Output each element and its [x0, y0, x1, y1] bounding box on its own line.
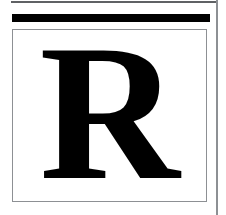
section-initial-letter: R: [13, 30, 206, 201]
right-column-rule: [216, 0, 218, 215]
top-hairline-rule: [11, 1, 217, 3]
letter-frame-box: R: [12, 29, 207, 202]
scanned-page: R: [0, 0, 226, 215]
